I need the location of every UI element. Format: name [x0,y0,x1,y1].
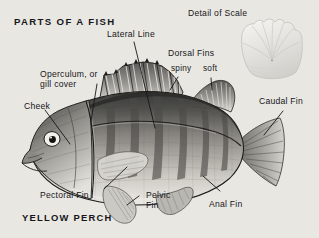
label-operculum: Operculum, or gill cover [40,69,98,90]
label-dorsal-soft: soft [203,65,217,74]
label-operculum-line1: Operculum, or [40,69,98,79]
label-cheek: Cheek [24,102,50,111]
scale-detail-illustration [242,19,303,79]
caudal-fin-shape [240,118,284,186]
label-pelvic-fin-line2: Fin [146,200,159,210]
label-dorsal-spiny: spiny [171,65,191,74]
label-pelvic-fin-line1: Pelvic [146,190,170,200]
label-operculum-line2: gill cover [40,79,76,89]
label-lateral-line: Lateral Line [107,30,155,39]
label-dorsal-fins: Dorsal Fins [168,49,214,58]
figure-canvas: PARTS OF A FISH YELLOW PERCH Lateral Lin… [0,0,319,238]
fish-head-shape [22,100,95,200]
page-title: PARTS OF A FISH [14,17,115,27]
species-caption: YELLOW PERCH [22,213,113,223]
label-anal-fin: Anal Fin [209,200,243,209]
label-detail-of-scale: Detail of Scale [188,9,247,18]
label-pelvic-fin: Pelvic Fin [146,190,170,211]
label-caudal-fin: Caudal Fin [259,97,303,106]
label-pectoral-fin: Pectoral Fin [40,191,89,200]
